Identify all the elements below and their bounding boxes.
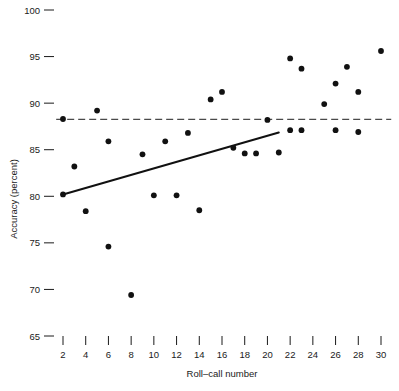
x-tick-label: 24 [308, 349, 319, 360]
trend-line [63, 132, 279, 194]
data-point [140, 151, 146, 157]
data-point [106, 138, 112, 144]
y-tick-label: 80 [29, 191, 40, 202]
x-tick-label: 12 [171, 349, 182, 360]
x-tick-label: 20 [262, 349, 273, 360]
data-point [299, 66, 305, 72]
data-point [344, 64, 350, 70]
data-point [355, 89, 361, 95]
chart-svg: 65707580859095100 2468101214161820222426… [0, 0, 399, 391]
x-tick-label: 26 [330, 349, 341, 360]
x-tick-label: 18 [239, 349, 250, 360]
x-tick-label: 6 [106, 349, 111, 360]
x-tick-label: 2 [60, 349, 65, 360]
data-point [60, 116, 66, 122]
data-point [162, 138, 168, 144]
scatter-chart-figure: 65707580859095100 2468101214161820222426… [0, 0, 399, 391]
data-point [355, 129, 361, 135]
data-point [378, 48, 384, 54]
data-point [94, 108, 100, 114]
y-axis-ticks [44, 10, 54, 336]
x-tick-label: 4 [83, 349, 88, 360]
data-point [71, 164, 77, 170]
data-point [219, 89, 225, 95]
x-tick-label: 22 [285, 349, 296, 360]
y-tick-label: 90 [29, 98, 40, 109]
data-point [287, 127, 293, 133]
x-tick-label: 8 [128, 349, 133, 360]
data-point [287, 56, 293, 62]
data-point [185, 130, 191, 136]
data-point [333, 81, 339, 87]
data-point [151, 192, 157, 198]
y-tick-label: 70 [29, 284, 40, 295]
x-tick-label: 10 [149, 349, 160, 360]
x-tick-label: 14 [194, 349, 205, 360]
data-point [242, 151, 248, 157]
data-point [299, 127, 305, 133]
y-axis-title: Accuracy (percent) [8, 159, 19, 239]
data-point [276, 150, 282, 156]
x-axis-title: Roll–call number [187, 368, 258, 379]
y-tick-label: 75 [29, 237, 40, 248]
x-axis-tick-labels: 24681012141618202224262830 [60, 349, 386, 360]
x-tick-label: 28 [353, 349, 364, 360]
data-point [230, 145, 236, 151]
y-tick-label: 65 [29, 331, 40, 342]
data-point [253, 151, 259, 157]
y-tick-label: 100 [24, 5, 40, 16]
y-tick-label: 95 [29, 51, 40, 62]
x-tick-label: 30 [376, 349, 387, 360]
data-point [208, 97, 214, 103]
data-point [265, 117, 271, 123]
x-tick-label: 16 [217, 349, 228, 360]
scatter-points [60, 48, 384, 298]
data-point [321, 101, 327, 107]
data-point [174, 192, 180, 198]
y-tick-label: 85 [29, 144, 40, 155]
y-axis-tick-labels: 65707580859095100 [24, 5, 40, 342]
data-point [333, 127, 339, 133]
data-point [196, 207, 202, 213]
data-point [106, 244, 112, 250]
data-point [60, 192, 66, 198]
data-point [128, 292, 134, 298]
trend-line-path [63, 132, 279, 194]
data-point [83, 208, 89, 214]
x-axis-ticks [63, 336, 381, 345]
